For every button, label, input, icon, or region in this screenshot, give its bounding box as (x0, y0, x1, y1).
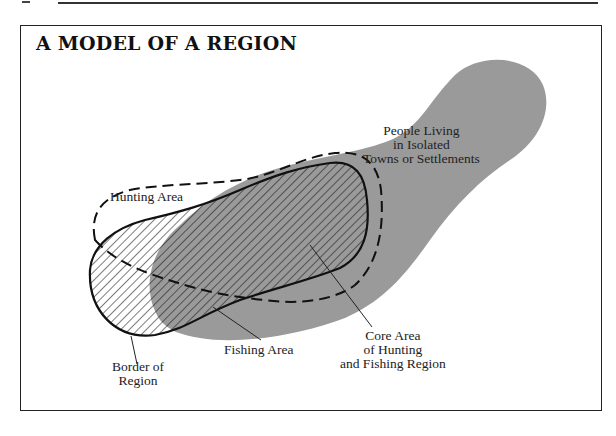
label-settlements: People Living in Isolated Towns or Settl… (363, 124, 480, 166)
label-fishing-area: Fishing Area (224, 343, 293, 357)
label-border-of-region: Border of Region (112, 360, 164, 388)
label-hunting-area: Hunting Area (110, 190, 183, 204)
label-core-area: Core Area of Hunting and Fishing Region (340, 329, 446, 371)
region-model-diagram (0, 0, 616, 436)
